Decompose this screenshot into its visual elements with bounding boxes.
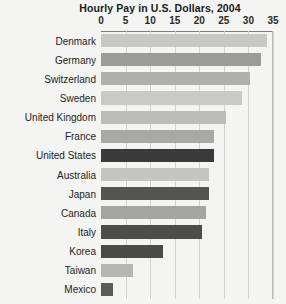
bar-row: France bbox=[101, 127, 273, 146]
category-label: Japan bbox=[69, 188, 96, 199]
bar bbox=[101, 111, 226, 124]
bar-row: Japan bbox=[101, 184, 273, 203]
bar bbox=[101, 53, 261, 66]
bar-row: Australia bbox=[101, 165, 273, 184]
bar bbox=[101, 225, 202, 238]
x-tick-label: 25 bbox=[218, 15, 229, 26]
category-label: Australia bbox=[57, 169, 96, 180]
category-label: Mexico bbox=[64, 284, 96, 295]
category-label: Germany bbox=[55, 54, 96, 65]
bar-row: United States bbox=[101, 146, 273, 165]
category-label: Italy bbox=[78, 226, 96, 237]
bar bbox=[101, 168, 209, 181]
bar-row: Canada bbox=[101, 203, 273, 222]
bar-row: Korea bbox=[101, 242, 273, 261]
bar bbox=[101, 130, 214, 143]
x-tick-label: 20 bbox=[194, 15, 205, 26]
bar bbox=[101, 245, 163, 258]
plot-area: DenmarkGermanySwitzerlandSwedenUnited Ki… bbox=[101, 31, 273, 299]
x-tick-label: 0 bbox=[98, 15, 104, 26]
x-tick-label: 15 bbox=[169, 15, 180, 26]
x-tick-label: 35 bbox=[267, 15, 278, 26]
bar-row: Sweden bbox=[101, 88, 273, 107]
x-axis-tick-labels: 05101520253035 bbox=[0, 15, 286, 28]
bar bbox=[101, 72, 250, 85]
bar bbox=[101, 283, 113, 296]
bar-row: Italy bbox=[101, 222, 273, 241]
bar-row: Denmark bbox=[101, 31, 273, 50]
bar bbox=[101, 206, 206, 219]
gridline bbox=[273, 31, 274, 299]
chart-title: Hourly Pay in U.S. Dollars, 2004 bbox=[0, 2, 286, 14]
category-label: United Kingdom bbox=[25, 112, 96, 123]
bar-row: Switzerland bbox=[101, 69, 273, 88]
bar bbox=[101, 187, 209, 200]
category-label: Taiwan bbox=[65, 265, 96, 276]
bar bbox=[101, 34, 267, 47]
hourly-pay-bar-chart: Hourly Pay in U.S. Dollars, 2004 0510152… bbox=[0, 0, 286, 304]
bar-row: Mexico bbox=[101, 280, 273, 299]
bar bbox=[101, 264, 133, 277]
x-tick-label: 10 bbox=[145, 15, 156, 26]
bar bbox=[101, 91, 242, 104]
bar-row: Taiwan bbox=[101, 261, 273, 280]
x-tick-label: 5 bbox=[123, 15, 129, 26]
category-label: Denmark bbox=[55, 35, 96, 46]
bar-row: United Kingdom bbox=[101, 108, 273, 127]
bar-row: Germany bbox=[101, 50, 273, 69]
bar bbox=[101, 149, 214, 162]
category-label: United States bbox=[36, 150, 96, 161]
category-label: Canada bbox=[61, 207, 96, 218]
category-label: France bbox=[65, 131, 96, 142]
category-label: Korea bbox=[69, 246, 96, 257]
category-label: Switzerland bbox=[44, 73, 96, 84]
x-tick-label: 30 bbox=[243, 15, 254, 26]
category-label: Sweden bbox=[60, 92, 96, 103]
